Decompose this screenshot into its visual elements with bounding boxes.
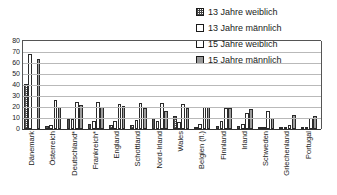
legend-swatch-icon xyxy=(196,24,204,32)
bar xyxy=(135,120,139,129)
plot-area xyxy=(22,40,321,130)
y-axis-tick-label: 60 xyxy=(0,59,20,66)
x-axis-label-cell: Deutschland* xyxy=(65,129,86,191)
bar xyxy=(220,121,224,129)
bar xyxy=(152,118,156,129)
bar xyxy=(309,118,313,129)
x-axis-tick-label: Irland xyxy=(241,131,249,150)
gridline xyxy=(23,107,321,108)
x-axis-tick-label: Griechenland xyxy=(283,131,291,176)
x-axis-tick-label: England xyxy=(113,131,121,159)
bar xyxy=(113,121,117,129)
x-axis-label-cell: England xyxy=(107,129,128,191)
bar xyxy=(54,100,58,129)
x-axis-tick-label: Deutschland* xyxy=(71,131,79,176)
legend-swatch-icon xyxy=(196,8,204,16)
bar xyxy=(177,122,181,129)
plot-right-border xyxy=(321,41,322,129)
x-axis-label-cell: Nord-Irland xyxy=(150,129,171,191)
y-axis-tick-label: 50 xyxy=(0,70,20,77)
x-axis-label-cell: Portugal xyxy=(299,129,320,191)
y-axis: 01020304050607080 xyxy=(0,36,20,128)
legend-item-13-jahre-maennlich: 13 Jahre männlich xyxy=(196,20,336,36)
x-axis-tick-label: Belgien (fl.) xyxy=(198,131,206,169)
x-axis-label-cell: Dänemark xyxy=(22,129,43,191)
x-axis-tick-label: Portugal xyxy=(305,131,313,159)
gridline xyxy=(23,118,321,119)
x-axis-label-cell: Belgien (fl.) xyxy=(192,129,213,191)
bar xyxy=(164,111,168,129)
x-axis-tick-label: Nord-Irland xyxy=(156,131,164,169)
bar xyxy=(249,109,253,129)
x-axis-label-cell: Griechenland xyxy=(277,129,298,191)
bar xyxy=(96,102,100,130)
legend-item-13-jahre-weiblich: 13 Jahre weiblich xyxy=(196,4,336,20)
gridline xyxy=(23,85,321,86)
y-axis-tick-label: 70 xyxy=(0,48,20,55)
x-axis-tick-label: Wales xyxy=(177,131,185,152)
gridline xyxy=(23,52,321,53)
x-axis-label-cell: Finnland xyxy=(214,129,235,191)
x-axis-label-cell: Schweden xyxy=(256,129,277,191)
bar xyxy=(271,118,275,129)
x-axis-labels: DänemarkÖsterreichDeutschland*Frankreich… xyxy=(22,129,320,191)
bar xyxy=(266,111,270,129)
gridline xyxy=(23,96,321,97)
x-axis-tick-label: Schweden xyxy=(262,131,270,166)
x-axis-tick-label: Schottland xyxy=(134,131,142,166)
bar xyxy=(245,113,249,130)
bar-chart: 13 Jahre weiblich 13 Jahre männlich 15 J… xyxy=(0,0,337,195)
y-axis-tick-label: 40 xyxy=(0,81,20,88)
gridline xyxy=(23,74,321,75)
x-axis-label-cell: Irland xyxy=(235,129,256,191)
x-axis-tick-label: Dänemark xyxy=(28,131,36,166)
bar xyxy=(156,121,160,129)
y-axis-tick-label: 0 xyxy=(0,125,20,132)
bar xyxy=(292,115,296,129)
x-axis-tick-label: Österreich xyxy=(49,131,57,166)
bar xyxy=(79,105,83,129)
bar xyxy=(92,121,96,129)
x-axis-label-cell: Wales xyxy=(171,129,192,191)
x-axis-tick-label: Finnland xyxy=(220,131,228,160)
gridline xyxy=(23,63,321,64)
y-axis-tick-label: 80 xyxy=(0,37,20,44)
x-axis-label-cell: Österreich xyxy=(43,129,64,191)
y-axis-tick-label: 30 xyxy=(0,92,20,99)
y-axis-tick-label: 10 xyxy=(0,114,20,121)
x-axis-label-cell: Frankreich* xyxy=(86,129,107,191)
bar xyxy=(71,119,75,129)
y-axis-tick-label: 20 xyxy=(0,103,20,110)
x-axis-tick-label: Frankreich* xyxy=(92,131,100,169)
x-axis-label-cell: Schottland xyxy=(128,129,149,191)
legend-label: 13 Jahre weiblich xyxy=(208,7,278,17)
legend-label: 13 Jahre männlich xyxy=(208,23,282,33)
bar xyxy=(75,102,79,130)
bar xyxy=(67,119,71,129)
